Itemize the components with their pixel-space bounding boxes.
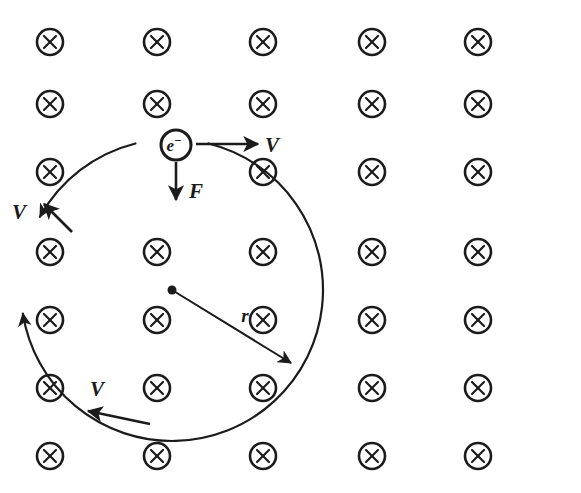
field-symbol-x-icon	[250, 307, 276, 333]
field-symbol-x-icon	[465, 443, 491, 469]
velocity-vector-left-label: V	[12, 200, 28, 224]
field-symbol-x-icon	[465, 159, 491, 185]
field-symbol-x-icon	[465, 91, 491, 117]
field-symbol-x-icon	[359, 29, 385, 55]
field-symbol-x-icon	[250, 29, 276, 55]
field-symbol-x-icon	[465, 239, 491, 265]
field-symbol-x-icon	[359, 307, 385, 333]
field-symbol-x-icon	[359, 375, 385, 401]
field-symbol-x-icon	[359, 91, 385, 117]
field-symbol-x-icon	[37, 239, 63, 265]
field-symbol-x-icon	[37, 307, 63, 333]
magnetic-field-diagram: r VFVV e−	[0, 0, 581, 493]
field-symbol-x-icon	[250, 375, 276, 401]
field-symbol-x-icon	[465, 307, 491, 333]
velocity-vector-top-label: V	[265, 133, 281, 157]
field-symbol-x-icon	[465, 375, 491, 401]
field-symbol-x-icon	[359, 159, 385, 185]
field-symbol-x-icon	[250, 239, 276, 265]
field-symbol-x-icon	[144, 307, 170, 333]
field-symbol-x-icon	[250, 443, 276, 469]
force-vector-label: F	[188, 179, 203, 203]
field-symbol-x-icon	[144, 239, 170, 265]
field-symbol-x-icon	[359, 239, 385, 265]
field-symbol-x-icon	[144, 375, 170, 401]
field-symbol-x-icon	[144, 443, 170, 469]
field-symbol-x-icon	[37, 29, 63, 55]
field-symbol-x-icon	[37, 159, 63, 185]
field-symbol-x-icon	[144, 91, 170, 117]
radius-label: r	[241, 305, 249, 326]
electron-label-superscript: −	[174, 133, 181, 148]
field-symbol-x-icon	[144, 29, 170, 55]
magnetic-field-grid	[37, 29, 491, 469]
field-symbol-x-icon	[359, 443, 385, 469]
velocity-vector-left-group: V	[12, 200, 72, 232]
diagram-canvas: r VFVV e−	[0, 0, 581, 493]
velocity-vector-bottom-label: V	[90, 377, 106, 401]
velocity-vector-bottom-group: V	[88, 377, 150, 424]
force-vector-group: F	[176, 162, 203, 203]
field-symbol-x-icon	[465, 29, 491, 55]
field-symbol-x-icon	[250, 91, 276, 117]
field-symbol-x-icon	[37, 443, 63, 469]
velocity-vector-left	[44, 204, 72, 232]
electron-group: e−	[161, 130, 191, 160]
field-symbol-x-icon	[37, 91, 63, 117]
